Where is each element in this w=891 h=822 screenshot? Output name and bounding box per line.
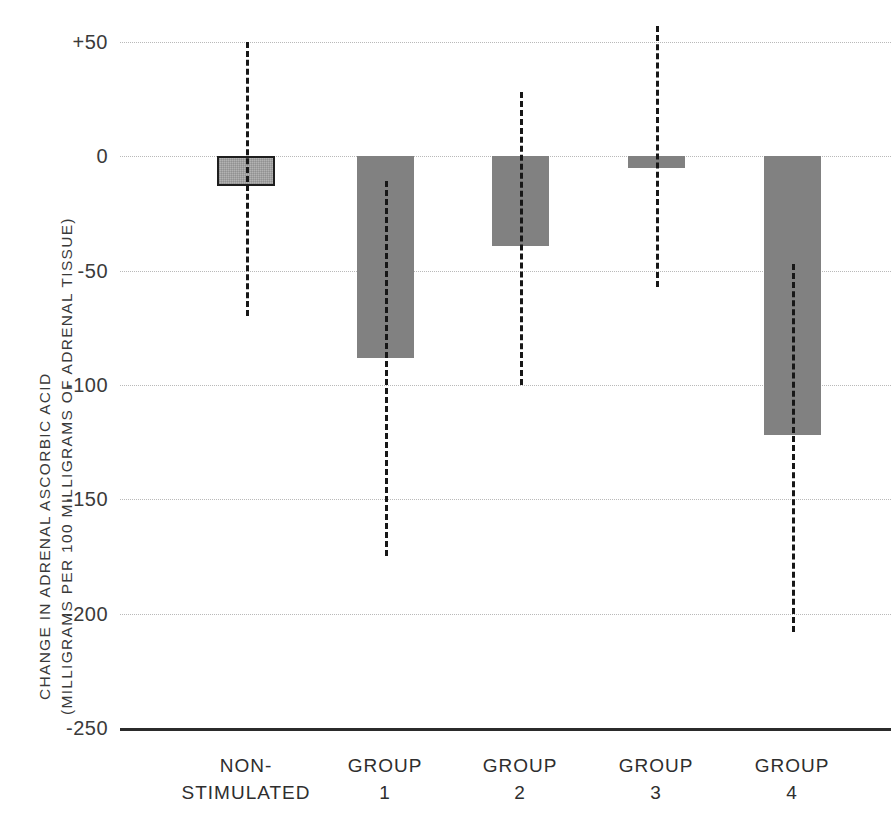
x-axis-tick-label: GROUP4 <box>755 752 830 806</box>
y-axis-title-line-1: CHANGE IN ADRENAL ASCORBIC ACID <box>36 373 54 700</box>
x-axis-tick-label: GROUP3 <box>619 752 694 806</box>
x-axis-labels: NON-STIMULATEDGROUP1GROUP2GROUP3GROUP4 <box>120 752 891 822</box>
y-axis-title: CHANGE IN ADRENAL ASCORBIC ACID (MILLIGR… <box>0 0 60 740</box>
x-axis-tick-label-line: 4 <box>755 779 830 806</box>
gridline <box>120 42 891 43</box>
y-axis-tick-label: -150 <box>12 488 120 511</box>
y-axis-tick-label: -100 <box>12 374 120 397</box>
y-axis-tick-label: +50 <box>12 31 120 54</box>
x-axis-tick-label-line: 3 <box>619 779 694 806</box>
y-axis-tick-label: 0 <box>12 145 120 168</box>
x-axis-tick-label-line: GROUP <box>483 752 558 779</box>
y-axis-tick-label: -50 <box>12 259 120 282</box>
error-bar <box>656 26 659 287</box>
x-axis-tick-label-line: NON- <box>182 752 311 779</box>
chart-figure: CHANGE IN ADRENAL ASCORBIC ACID (MILLIGR… <box>0 0 891 822</box>
x-axis-tick-label-line: 2 <box>483 779 558 806</box>
x-axis-tick-label: GROUP2 <box>483 752 558 806</box>
x-axis-tick-label-line: GROUP <box>755 752 830 779</box>
x-axis-tick-label-line: STIMULATED <box>182 779 311 806</box>
y-axis-tick-label: -200 <box>12 602 120 625</box>
gridline <box>120 614 891 615</box>
plot-area: +500-50-100-150-200-250 <box>120 0 891 740</box>
x-axis-tick-label: GROUP1 <box>348 752 423 806</box>
error-bar <box>385 181 388 556</box>
y-axis-title-line-2: (MILLIGRAMS PER 100 MILLIGRAMS OF ADRENA… <box>58 217 76 715</box>
axis-baseline <box>120 728 891 731</box>
error-bar <box>246 42 249 316</box>
x-axis-tick-label-line: GROUP <box>619 752 694 779</box>
error-bar <box>520 92 523 385</box>
error-bar <box>792 264 795 632</box>
y-axis-tick-label: -250 <box>12 717 120 740</box>
x-axis-tick-label: NON-STIMULATED <box>182 752 311 806</box>
gridline <box>120 499 891 500</box>
x-axis-tick-label-line: 1 <box>348 779 423 806</box>
x-axis-tick-label-line: GROUP <box>348 752 423 779</box>
